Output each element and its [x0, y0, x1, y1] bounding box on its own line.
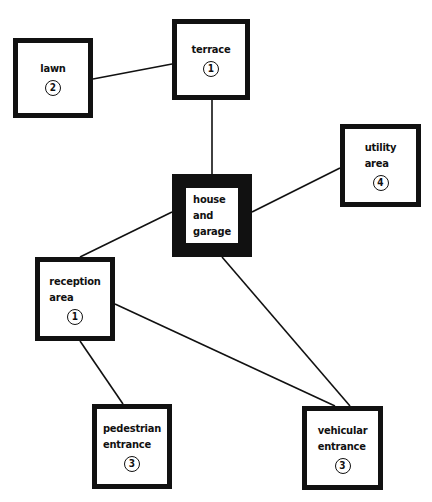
- node-label-line: reception: [49, 274, 100, 290]
- circled-number-icon: 1: [203, 61, 219, 77]
- node-label-line: lawn: [40, 61, 65, 77]
- node-label-line: garage: [193, 224, 231, 240]
- node-label-line: entrance: [318, 439, 368, 455]
- node-label-line: utility: [365, 140, 397, 156]
- edge-reception-pedestrian: [80, 341, 123, 404]
- node-utility[interactable]: utilityarea4: [340, 124, 421, 207]
- node-label-line: area: [365, 156, 397, 172]
- node-reception[interactable]: receptionarea1: [35, 257, 115, 341]
- circled-number-icon: 3: [335, 458, 351, 474]
- edge-house-reception: [80, 212, 172, 257]
- edge-house-utility: [252, 168, 340, 212]
- circled-number-icon: 3: [124, 456, 140, 472]
- node-vehicular[interactable]: vehicularentrance3: [302, 406, 383, 490]
- node-lawn[interactable]: lawn2: [13, 38, 93, 118]
- node-label-line: vehicular: [318, 423, 368, 439]
- node-label-line: entrance: [103, 437, 161, 453]
- node-label: houseandgarage: [193, 192, 231, 240]
- node-label-line: and: [193, 208, 231, 224]
- node-house[interactable]: houseandgarage: [172, 174, 252, 257]
- node-label: terrace: [191, 42, 230, 58]
- node-pedestrian[interactable]: pedestrianentrance3: [92, 404, 172, 489]
- node-label: utilityarea: [365, 140, 397, 172]
- node-label-line: house: [193, 192, 231, 208]
- node-terrace[interactable]: terrace1: [172, 19, 250, 100]
- edge-reception-vehicular: [115, 304, 335, 406]
- node-label-line: area: [49, 290, 100, 306]
- node-label-line: terrace: [191, 42, 230, 58]
- node-label: vehicularentrance: [318, 423, 368, 455]
- circled-number-icon: 2: [45, 80, 61, 96]
- node-label: receptionarea: [49, 274, 100, 306]
- node-label: lawn: [40, 61, 65, 77]
- circled-number-icon: 4: [373, 175, 389, 191]
- node-label: pedestrianentrance: [103, 421, 161, 453]
- circled-number-icon: 1: [67, 309, 83, 325]
- node-label-line: pedestrian: [103, 421, 161, 437]
- edge-lawn-terrace: [93, 64, 172, 79]
